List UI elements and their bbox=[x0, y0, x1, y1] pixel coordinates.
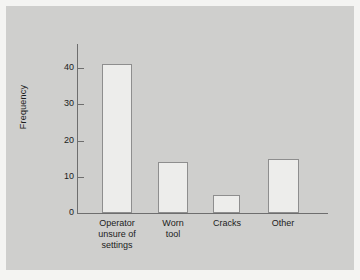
y-axis-title: Frequency bbox=[18, 62, 28, 152]
y-tick-label: 30 bbox=[52, 99, 74, 108]
y-tick-label-wrap: 20 bbox=[46, 136, 74, 145]
x-tick-label-line: settings bbox=[72, 240, 162, 251]
y-tick-label: 40 bbox=[52, 63, 74, 72]
x-axis-line bbox=[77, 213, 328, 214]
x-tick-label-line: Other bbox=[238, 218, 328, 229]
y-tick-mark bbox=[78, 141, 84, 142]
bar bbox=[158, 162, 188, 213]
y-tick-label-wrap: 10 bbox=[46, 172, 74, 181]
x-tick-label-line: tool bbox=[128, 229, 218, 240]
y-tick-label: 10 bbox=[52, 172, 74, 181]
y-axis-line bbox=[77, 44, 78, 214]
x-tick-label: Other bbox=[238, 218, 328, 229]
y-tick-mark bbox=[78, 177, 84, 178]
chart-panel: Frequency 010203040 Operatorunsure ofset… bbox=[6, 6, 354, 270]
y-tick-mark bbox=[78, 104, 84, 105]
y-tick-label: 0 bbox=[52, 208, 74, 217]
bar bbox=[268, 159, 299, 213]
y-tick-mark bbox=[78, 213, 84, 214]
y-tick-label-wrap: 40 bbox=[46, 63, 74, 72]
y-tick-label: 20 bbox=[52, 136, 74, 145]
y-tick-label-wrap: 30 bbox=[46, 99, 74, 108]
bar bbox=[213, 195, 240, 213]
y-tick-mark bbox=[78, 68, 84, 69]
y-tick-label-wrap: 0 bbox=[46, 208, 74, 217]
bar bbox=[102, 64, 132, 213]
